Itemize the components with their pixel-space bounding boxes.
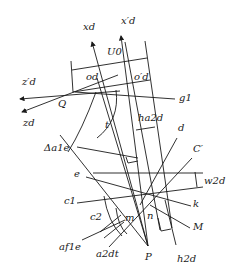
axis-zd-prime (20, 91, 120, 99)
label-zd_prime: z′d (21, 76, 36, 87)
label-a_2dt: a2dt (96, 248, 120, 259)
w2d-bracket (195, 172, 197, 187)
label-od_prime: o′d (134, 71, 149, 82)
label-a_f1e: af1e (59, 241, 81, 252)
label-c1: c1 (64, 195, 76, 206)
line-g1 (75, 92, 175, 99)
line-c1 (77, 187, 203, 203)
label-d: d (178, 122, 184, 133)
label-Q: Q (58, 98, 66, 109)
label-h_a2d: ha2d (138, 112, 163, 123)
label-h_2d: h2d (177, 253, 196, 264)
label-w2d: w2d (204, 175, 225, 186)
frame-top (72, 58, 147, 70)
label-zd: zd (22, 117, 35, 128)
line-delta (77, 147, 138, 158)
h-a2d-box (136, 127, 155, 130)
label-C_prime: C′ (193, 143, 204, 154)
label-g1: g1 (179, 92, 192, 103)
label-od: od (86, 71, 98, 82)
label-m: m (125, 212, 134, 223)
axis-zd (22, 75, 118, 112)
label-P: P (144, 251, 152, 262)
frame-left (71, 61, 73, 92)
label-c2: c2 (90, 211, 102, 222)
label-e: e (74, 168, 80, 179)
arc-left (68, 92, 96, 152)
label-delta_a1e: Δa1e (43, 142, 70, 153)
line-M (150, 205, 190, 228)
label-xd_prime: x′d (121, 15, 135, 26)
line-d (140, 138, 177, 205)
label-U0: U0 (107, 46, 122, 57)
label-k: k (193, 198, 199, 209)
label-n: n (147, 210, 153, 221)
construction-diagram: x′dxdU0odo′dz′dg1Qzdha2dtdΔa1eC′ew2dc1kc… (0, 0, 229, 277)
label-M: M (192, 221, 204, 232)
line-e2 (86, 177, 191, 206)
diagram-canvas: x′dxdU0odo′dz′dg1Qzdha2dtdΔa1eC′ew2dc1kc… (0, 0, 229, 277)
label-xd: xd (83, 21, 95, 32)
line-h2d (165, 200, 176, 245)
